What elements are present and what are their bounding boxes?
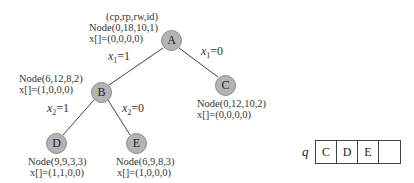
node-d-values: Node(9,9,3,3) xyxy=(28,156,87,167)
node-e-values: Node(6,9,8,3) xyxy=(116,156,175,167)
queue-cell: C xyxy=(316,141,337,163)
node-c-values: Node(0,12,10,2) xyxy=(197,98,266,109)
node-d-vector: x[]=(1,1,0,0) xyxy=(30,167,84,178)
tree-node-a: A xyxy=(161,30,182,51)
node-a-values: Node(0,18,10,1) xyxy=(89,22,158,33)
node-b-vector: x[]=(1,0,0,0) xyxy=(19,84,73,95)
tree-node-b: B xyxy=(91,82,112,103)
queue-cell: D xyxy=(337,141,358,163)
edge-label-a-c: x1=0 xyxy=(201,44,223,60)
node-e-vector: x[]=(1,0,0,0) xyxy=(117,167,171,178)
tree-node-c: C xyxy=(215,75,236,96)
node-label-header: (cp,rp,rw,id) xyxy=(106,11,158,22)
node-a-vector: x[]=(0,0,0,0) xyxy=(89,33,143,44)
node-b-values: Node(6,12,8,2) xyxy=(19,73,83,84)
queue-cell xyxy=(379,141,400,163)
node-c-vector: x[]=(0,0,0,0) xyxy=(197,109,251,120)
edge-label-b-d: x2=1 xyxy=(47,101,69,117)
queue-cell: E xyxy=(358,141,379,163)
queue-label: q xyxy=(302,144,309,160)
queue: C D E xyxy=(315,140,401,164)
edge-label-a-b: x1=1 xyxy=(108,49,130,65)
tree-node-d: D xyxy=(46,133,67,154)
tree-node-e: E xyxy=(126,133,147,154)
edge-label-b-e: x2=0 xyxy=(122,101,144,117)
